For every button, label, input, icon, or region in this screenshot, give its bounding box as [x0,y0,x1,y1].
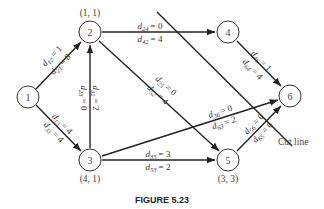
svg-text:d24= 0: d24= 0 [138,21,163,32]
node-6: 6 [279,85,301,107]
edge-label-3-6: d36= 0 d63= 2 [207,103,238,133]
edge-label-2-4: d24= 0 d42= 4 [138,21,163,45]
cut-line-label: Cut line [278,137,308,147]
edge-label-1-2: d12= 1 d21= 8 [39,43,73,77]
node-4: 4 [217,21,239,43]
svg-text:d42= 4: d42= 4 [138,34,163,45]
svg-text:1: 1 [26,92,31,103]
node-5: 5 (3, 3) [217,149,239,185]
svg-text:4: 4 [226,27,231,38]
node-3-coord: (4, 1) [80,174,101,185]
node-5-coord: (3, 3) [218,174,239,185]
figure-caption: FIGURE 5.23 [135,195,189,205]
node-2: 2 (1, 1) [79,8,101,43]
edge-label-4-6: d46= 1 d64= 4 [240,48,274,82]
node-2-coord: (1, 1) [80,8,101,19]
network-diagram: Cut line 1 2 (1, 1) 3 (4, 1) 4 5 (3, 3) … [0,0,324,209]
svg-text:d23= 0: d23= 0 [78,86,89,111]
node-3: 3 (4, 1) [79,149,101,185]
edge-label-2-5: d25= 0 d52= 4 [145,74,179,108]
svg-text:2: 2 [88,27,93,38]
svg-text:d32= 2: d32= 2 [90,86,101,111]
edge-label-2-3: d23= 0 d32= 2 [78,86,101,111]
svg-text:6: 6 [288,91,293,102]
node-1: 1 [17,86,39,108]
svg-text:5: 5 [226,155,231,166]
svg-text:d53= 2: d53= 2 [146,162,171,173]
edge-label-3-5: d35= 3 d53= 2 [146,149,171,173]
svg-text:d35= 3: d35= 3 [146,149,171,160]
svg-text:3: 3 [88,155,93,166]
